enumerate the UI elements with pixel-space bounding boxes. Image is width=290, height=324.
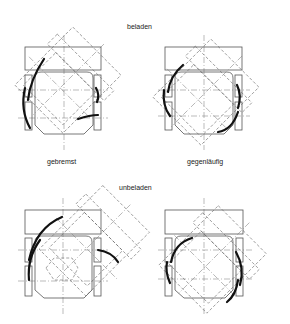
diagram-drawing — [0, 0, 290, 324]
panel-loaded-braked — [2, 13, 135, 150]
panel-loaded-counter-rotating — [140, 25, 273, 158]
column-label-braked: gebremst — [47, 158, 76, 165]
panel-unloaded-braked — [18, 174, 162, 316]
panel-unloaded-counter-rotating — [148, 192, 281, 324]
row-label-loaded: beladen — [127, 23, 152, 30]
row-label-unloaded: unbeladen — [119, 184, 152, 191]
turning-diagram-figure: beladen gebremst gegenläufig unbeladen — [0, 0, 290, 324]
column-label-counter-rotating: gegenläufig — [187, 158, 223, 165]
